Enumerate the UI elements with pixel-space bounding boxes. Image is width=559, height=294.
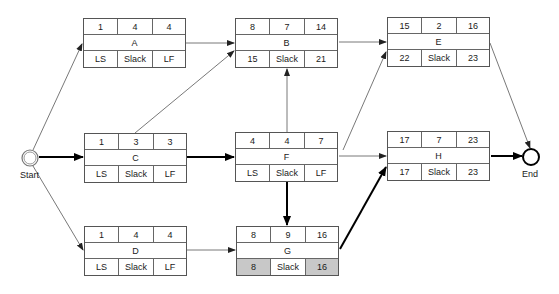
late-finish: LF: [154, 259, 186, 275]
late-start: 8: [237, 259, 271, 275]
late-start: LS: [84, 51, 118, 67]
early-start: 15: [388, 18, 422, 33]
activity-name: C: [85, 150, 186, 165]
early-finish: 4: [153, 19, 185, 34]
slack: Slack: [270, 51, 305, 67]
early-start: 1: [85, 134, 119, 149]
late-start: 17: [388, 164, 422, 180]
activity-name: G: [237, 243, 338, 258]
activity-node-d[interactable]: 144 D LSSlackLF: [84, 226, 187, 276]
late-start: LS: [85, 166, 119, 182]
late-finish: LF: [154, 166, 186, 182]
slack: Slack: [119, 166, 154, 182]
late-start: LS: [236, 165, 270, 181]
slack: Slack: [422, 164, 457, 180]
late-start: LS: [85, 259, 119, 275]
edge-start-d: [33, 166, 83, 250]
early-start: 17: [388, 132, 422, 147]
end-label: End: [522, 169, 538, 179]
early-finish: 14: [305, 19, 337, 34]
early-finish: 7: [305, 133, 337, 148]
edge-e-end: [490, 43, 530, 148]
activity-node-b[interactable]: 8714 B 15Slack21: [235, 18, 338, 68]
early-start: 8: [237, 227, 271, 242]
start-node-icon: [22, 150, 38, 166]
slack: Slack: [270, 165, 305, 181]
slack: Slack: [118, 51, 153, 67]
duration: 2: [422, 18, 457, 33]
late-finish: 23: [457, 50, 489, 66]
slack: Slack: [119, 259, 154, 275]
activity-node-g[interactable]: 8916 G 8Slack16: [236, 226, 339, 276]
late-finish: 16: [306, 259, 338, 275]
late-start: 15: [236, 51, 270, 67]
activity-node-a[interactable]: 144 A LSSlackLF: [83, 18, 186, 68]
duration: 3: [119, 134, 154, 149]
activity-name: D: [85, 243, 186, 258]
duration: 4: [270, 133, 305, 148]
activity-node-c[interactable]: 133 C LSSlackLF: [84, 133, 187, 183]
end-node-icon: [523, 149, 539, 165]
late-finish: LF: [153, 51, 185, 67]
duration: 7: [422, 132, 457, 147]
duration: 4: [119, 227, 154, 242]
early-start: 4: [236, 133, 270, 148]
activity-name: A: [84, 35, 185, 50]
activity-name: H: [388, 148, 489, 163]
activity-node-h[interactable]: 17723 H 17Slack23: [387, 131, 490, 181]
edge-g-h: [340, 167, 386, 249]
early-finish: 16: [306, 227, 338, 242]
activity-node-f[interactable]: 447 F LSSlackLF: [235, 132, 338, 182]
edge-start-a: [33, 44, 82, 150]
early-start: 8: [236, 19, 270, 34]
duration: 7: [270, 19, 305, 34]
activity-name: E: [388, 34, 489, 49]
late-start: 22: [388, 50, 422, 66]
early-finish: 4: [154, 227, 186, 242]
late-finish: 21: [305, 51, 337, 67]
activity-name: B: [236, 35, 337, 50]
duration: 4: [118, 19, 153, 34]
late-finish: 23: [457, 164, 489, 180]
early-start: 1: [85, 227, 119, 242]
early-start: 1: [84, 19, 118, 34]
activity-name: F: [236, 149, 337, 164]
slack: Slack: [271, 259, 306, 275]
early-finish: 23: [457, 132, 489, 147]
duration: 9: [271, 227, 306, 242]
edge-f-e: [343, 52, 386, 150]
late-finish: LF: [305, 165, 337, 181]
early-finish: 16: [457, 18, 489, 33]
start-label: Start: [20, 170, 39, 180]
slack: Slack: [422, 50, 457, 66]
early-finish: 3: [154, 134, 186, 149]
activity-node-e[interactable]: 15216 E 22Slack23: [387, 17, 490, 67]
